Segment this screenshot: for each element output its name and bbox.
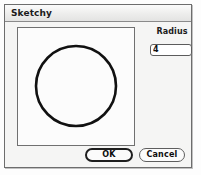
screen-backdrop: Sketchy Radius OK Cancel [0,0,201,175]
sketchy-dialog-window: Sketchy Radius OK Cancel [4,4,192,168]
dialog-titlebar[interactable]: Sketchy [5,5,191,22]
radius-label: Radius [150,27,194,37]
circle-shape [36,46,116,126]
radius-control-group: Radius [150,27,194,56]
sketch-canvas-svg [18,28,134,145]
dialog-body: Radius OK Cancel [5,22,191,167]
cancel-button[interactable]: Cancel [139,148,185,162]
dialog-title: Sketchy [5,9,52,18]
radius-input[interactable] [150,44,192,56]
dialog-button-row: OK Cancel [85,148,185,162]
sketch-canvas[interactable] [17,27,135,146]
ok-button[interactable]: OK [85,148,133,162]
